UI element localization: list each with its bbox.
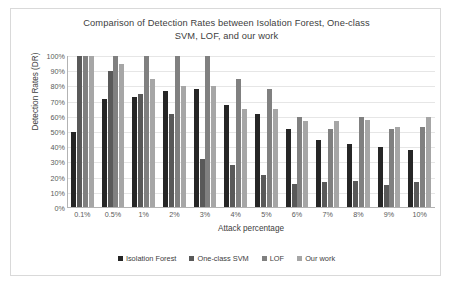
bar bbox=[138, 94, 143, 208]
bar bbox=[83, 56, 88, 208]
x-axis-tick-labels: 0.1%0.5%1%2%3%4%5%6%7%8%9%10% bbox=[67, 210, 435, 224]
y-axis-line bbox=[67, 56, 68, 208]
chart-title-line-1: Comparison of Detection Rates between Is… bbox=[49, 17, 404, 30]
y-axis-tick: 40% bbox=[51, 143, 65, 152]
bar bbox=[328, 129, 333, 208]
bar-group bbox=[404, 56, 435, 208]
bar bbox=[113, 56, 118, 208]
bar bbox=[420, 127, 425, 208]
bar-group bbox=[374, 56, 405, 208]
bar-group bbox=[98, 56, 129, 208]
y-axis-tick: 30% bbox=[51, 158, 65, 167]
bar-group bbox=[190, 56, 221, 208]
bar bbox=[236, 79, 241, 208]
bar bbox=[353, 181, 358, 208]
bar bbox=[200, 159, 205, 208]
bar bbox=[108, 71, 113, 208]
bar bbox=[365, 120, 370, 208]
x-axis-tick: 5% bbox=[261, 210, 271, 219]
y-axis-tick: 50% bbox=[51, 128, 65, 137]
chart-frame: Comparison of Detection Rates between Is… bbox=[10, 8, 441, 276]
legend-label: LOF bbox=[270, 254, 284, 263]
bar bbox=[297, 117, 302, 208]
bar bbox=[286, 129, 291, 208]
chart-title: Comparison of Detection Rates between Is… bbox=[49, 17, 404, 43]
x-axis-tick: 1% bbox=[138, 210, 148, 219]
bar-group bbox=[312, 56, 343, 208]
y-axis-tick: 20% bbox=[51, 173, 65, 182]
x-axis-tick: 2% bbox=[169, 210, 179, 219]
bar bbox=[322, 182, 327, 208]
bar bbox=[359, 117, 364, 208]
legend-swatch-icon bbox=[189, 256, 194, 261]
y-axis-tick: 60% bbox=[51, 112, 65, 121]
bar bbox=[71, 132, 76, 208]
bar bbox=[163, 91, 168, 208]
bar bbox=[102, 99, 107, 208]
y-axis-tick: 100% bbox=[47, 52, 65, 61]
bar bbox=[273, 109, 278, 208]
y-axis-tick: 70% bbox=[51, 97, 65, 106]
bar bbox=[169, 114, 174, 208]
x-axis-tick: 0.5% bbox=[105, 210, 121, 219]
x-axis-line bbox=[67, 207, 435, 208]
legend-swatch-icon bbox=[118, 256, 123, 261]
bar bbox=[150, 79, 155, 208]
bar bbox=[389, 129, 394, 208]
legend-item[interactable]: One-class SVM bbox=[189, 254, 248, 263]
bar bbox=[175, 56, 180, 208]
x-axis-tick: 10% bbox=[412, 210, 426, 219]
x-axis-tick: 8% bbox=[353, 210, 363, 219]
legend-item[interactable]: LOF bbox=[262, 254, 284, 263]
bar bbox=[426, 117, 431, 208]
bar bbox=[316, 140, 321, 208]
x-axis-tick: 6% bbox=[292, 210, 302, 219]
bar bbox=[89, 56, 94, 208]
bar-group bbox=[220, 56, 251, 208]
x-axis-tick: 4% bbox=[230, 210, 240, 219]
legend-label: Isolation Forest bbox=[126, 254, 177, 263]
bar-group bbox=[67, 56, 98, 208]
x-axis-tick: 9% bbox=[384, 210, 394, 219]
y-axis-tick: 80% bbox=[51, 82, 65, 91]
legend-label: Our work bbox=[305, 254, 335, 263]
bar-group bbox=[159, 56, 190, 208]
bar bbox=[119, 64, 124, 208]
bar bbox=[77, 56, 82, 208]
bar bbox=[334, 121, 339, 208]
bar bbox=[303, 121, 308, 208]
bar bbox=[194, 89, 199, 208]
bar-group bbox=[282, 56, 313, 208]
plot-area bbox=[67, 56, 435, 208]
bar bbox=[242, 109, 247, 208]
y-axis-tick: 0% bbox=[55, 204, 65, 213]
bar bbox=[211, 86, 216, 208]
bar bbox=[205, 56, 210, 208]
legend-item[interactable]: Isolation Forest bbox=[118, 254, 177, 263]
bar bbox=[408, 150, 413, 208]
bar bbox=[255, 114, 260, 208]
legend-item[interactable]: Our work bbox=[297, 254, 335, 263]
legend-swatch-icon bbox=[262, 256, 267, 261]
y-axis-tick: 90% bbox=[51, 67, 65, 76]
bar bbox=[384, 185, 389, 208]
bar bbox=[261, 175, 266, 208]
bar bbox=[347, 144, 352, 208]
bar-group bbox=[343, 56, 374, 208]
y-axis-tick: 10% bbox=[51, 188, 65, 197]
bar bbox=[378, 147, 383, 208]
bar bbox=[132, 97, 137, 208]
legend-label: One-class SVM bbox=[197, 254, 248, 263]
bar bbox=[395, 127, 400, 208]
chart-title-line-2: SVM, LOF, and our work bbox=[49, 30, 404, 43]
chart-legend: Isolation ForestOne-class SVMLOFOur work bbox=[11, 254, 442, 263]
bar bbox=[292, 184, 297, 208]
legend-swatch-icon bbox=[297, 256, 302, 261]
y-axis-tick-labels: 0%10%20%30%40%50%60%70%80%90%100% bbox=[29, 50, 65, 214]
bar bbox=[230, 165, 235, 208]
x-axis-title: Attack percentage bbox=[67, 224, 435, 233]
bar-group bbox=[128, 56, 159, 208]
x-axis-tick: 3% bbox=[200, 210, 210, 219]
bar-group bbox=[251, 56, 282, 208]
x-axis-tick: 0.1% bbox=[74, 210, 90, 219]
